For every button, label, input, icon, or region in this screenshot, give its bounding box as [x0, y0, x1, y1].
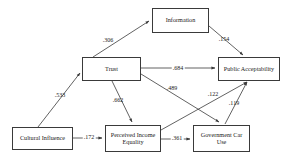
edge-cultural-influence-to-trust	[38, 73, 80, 127]
node-perceived-income-equality-label: Perceived Income Equality	[109, 132, 158, 146]
edge-label-trust-to-government-car-use: .489	[167, 85, 178, 91]
node-government-car-use-label: Government Car Use	[199, 132, 244, 146]
edge-label-perceived-income-equality-to-public-acceptability: .122	[208, 91, 219, 97]
edge-label-cultural-influence-to-trust: .533	[55, 92, 66, 98]
edge-trust-to-information	[93, 21, 149, 57]
node-trust[interactable]: Trust	[82, 57, 141, 81]
node-perceived-income-equality[interactable]: Perceived Income Equality	[105, 125, 161, 152]
edge-label-cultural-influence-to-perceived-income-equality: .172	[83, 134, 96, 140]
node-information[interactable]: Information	[152, 8, 209, 33]
edge-trust-to-government-car-use	[141, 74, 219, 122]
edge-label-trust-to-information: .306	[103, 37, 114, 43]
edge-label-trust-to-public-acceptability: .684	[172, 65, 185, 71]
node-public-acceptability[interactable]: Public Acceptability	[218, 57, 280, 81]
edge-label-trust-to-perceived-income-equality: .662	[113, 97, 124, 103]
node-cultural-influence-label: Cultural Influence	[18, 135, 67, 142]
node-cultural-influence[interactable]: Cultural Influence	[12, 127, 73, 150]
node-information-label: Information	[164, 17, 198, 24]
edge-label-information-to-public-acceptability: .154	[219, 36, 230, 42]
node-public-acceptability-label: Public Acceptability	[222, 66, 276, 73]
edge-label-perceived-income-equality-to-government-car-use: .361	[171, 135, 184, 141]
edge-label-government-car-use-to-public-acceptability: .119	[229, 100, 239, 106]
node-trust-label: Trust	[103, 66, 120, 73]
path-diagram: Information Trust Public Acceptability C…	[0, 0, 284, 163]
node-government-car-use[interactable]: Government Car Use	[193, 125, 250, 152]
